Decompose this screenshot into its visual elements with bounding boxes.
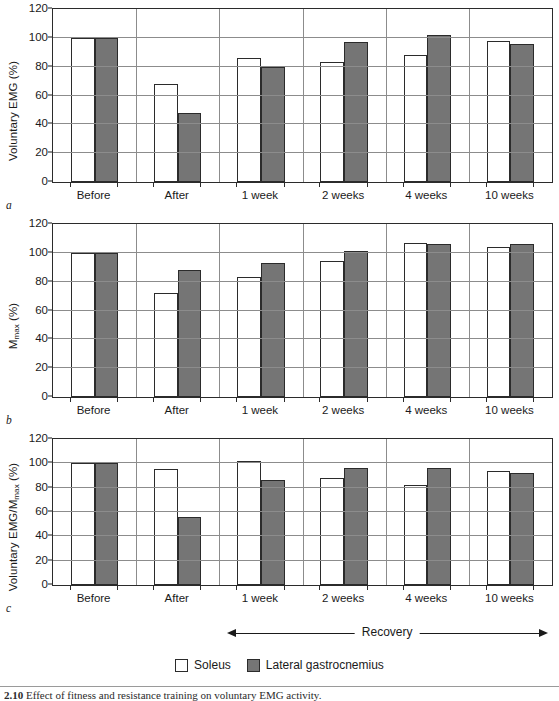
bar-lateral-gastrocnemius xyxy=(178,270,202,397)
panel-a-letter: a xyxy=(6,199,12,211)
x-tick-mark xyxy=(403,586,404,590)
bar-lateral-gastrocnemius xyxy=(95,253,119,397)
x-tick-mark xyxy=(153,183,154,187)
legend-label-soleus: Soleus xyxy=(194,658,231,672)
y-tick-label: 40 xyxy=(35,332,48,344)
x-axis-label: 10 weeks xyxy=(485,404,534,416)
legend-label-lateral-gastrocnemius: Lateral gastrocnemius xyxy=(266,658,384,672)
x-tick-mark xyxy=(403,398,404,402)
group-separator xyxy=(469,9,470,182)
caption-divider xyxy=(0,686,559,687)
panel-b-letter: b xyxy=(6,414,12,426)
bar-soleus xyxy=(404,243,428,397)
caption-text: Effect of fitness and resistance trainin… xyxy=(26,689,321,701)
x-tick-mark xyxy=(284,398,285,402)
group-separator xyxy=(136,439,137,585)
y-tick-label: 100 xyxy=(29,246,48,258)
panel-b-plot-area: 020406080100120 BeforeAfter1 week2 weeks… xyxy=(26,223,553,428)
x-tick-mark xyxy=(486,586,487,590)
bar-lateral-gastrocnemius xyxy=(261,263,285,397)
bar-soleus xyxy=(237,277,261,397)
group-separator xyxy=(386,9,387,182)
white-square-icon xyxy=(175,659,188,672)
gray-square-icon xyxy=(247,659,260,672)
x-tick-mark xyxy=(236,398,237,402)
x-axis-label: After xyxy=(165,592,189,604)
panel-c-y-axis-label: Voluntary EMG/Mmax (%) xyxy=(0,438,26,616)
y-tick-label: 120 xyxy=(29,217,48,229)
group-separator xyxy=(386,439,387,585)
y-tick-label: 120 xyxy=(29,432,48,444)
x-tick-mark xyxy=(533,586,534,590)
panel-b-y-axis-label-text: Mmax (%) xyxy=(7,302,19,349)
x-tick-mark xyxy=(153,586,154,590)
y-tick-label: 60 xyxy=(35,304,48,316)
group-separator xyxy=(219,224,220,397)
bar-lateral-gastrocnemius xyxy=(427,244,451,397)
recovery-annotation: Recovery xyxy=(0,622,559,644)
x-tick-mark xyxy=(200,398,201,402)
bar-soleus xyxy=(154,84,178,182)
group-separator xyxy=(136,9,137,182)
panel-c-y-axis-label-text: Voluntary EMG/Mmax (%) xyxy=(7,463,19,592)
panel-c-y-ticks: 020406080100120 xyxy=(26,438,52,586)
y-tick-label: 20 xyxy=(35,361,48,373)
y-tick-label: 40 xyxy=(35,117,48,129)
x-axis-label: 1 week xyxy=(242,404,278,416)
figure-caption: 2.10 Effect of fitness and resistance tr… xyxy=(4,689,555,701)
bar-soleus xyxy=(487,471,511,585)
x-tick-mark xyxy=(236,183,237,187)
x-axis-label: Before xyxy=(77,592,111,604)
caption-number: 2.10 xyxy=(4,689,23,701)
group-separator xyxy=(219,9,220,182)
panel-c: Voluntary EMG/Mmax (%) 020406080100120 B… xyxy=(0,438,559,616)
panel-a-y-ticks: 020406080100120 xyxy=(26,8,52,183)
x-axis-label: Before xyxy=(77,404,111,416)
x-tick-mark xyxy=(486,183,487,187)
y-tick-label: 80 xyxy=(35,60,48,72)
x-tick-mark xyxy=(70,183,71,187)
panel-a-y-axis-label: Voluntary EMG (%) xyxy=(0,8,26,213)
panel-a-x-axis: BeforeAfter1 week2 weeks4 weeks10 weeks xyxy=(52,183,553,213)
x-tick-mark xyxy=(367,586,368,590)
x-axis-label: 1 week xyxy=(242,189,278,201)
x-tick-mark xyxy=(284,586,285,590)
x-tick-mark xyxy=(319,183,320,187)
group-separator xyxy=(386,224,387,397)
y-tick-label: 20 xyxy=(35,146,48,158)
panel-a: Voluntary EMG (%) 020406080100120 Before… xyxy=(0,8,559,213)
group-separator xyxy=(303,9,304,182)
bar-lateral-gastrocnemius xyxy=(261,480,285,585)
x-tick-mark xyxy=(533,183,534,187)
bar-lateral-gastrocnemius xyxy=(510,244,534,397)
y-tick-label: 80 xyxy=(35,481,48,493)
legend-item-lateral-gastrocnemius: Lateral gastrocnemius xyxy=(247,658,384,672)
x-tick-mark xyxy=(200,183,201,187)
x-tick-mark xyxy=(367,398,368,402)
bar-soleus xyxy=(71,253,95,397)
bar-soleus xyxy=(404,55,428,182)
x-axis-label: After xyxy=(165,189,189,201)
x-axis-label: After xyxy=(165,404,189,416)
bar-soleus xyxy=(237,58,261,182)
bar-lateral-gastrocnemius xyxy=(178,517,202,585)
x-tick-mark xyxy=(117,398,118,402)
panel-c-letter: c xyxy=(6,602,11,614)
panel-a-plot xyxy=(52,8,553,183)
group-separator xyxy=(136,224,137,397)
group-separator xyxy=(303,439,304,585)
panel-a-plot-area: 020406080100120 BeforeAfter1 week2 weeks… xyxy=(26,8,553,213)
x-axis-label: 4 weeks xyxy=(405,592,447,604)
recovery-label: Recovery xyxy=(355,625,420,639)
bar-soleus xyxy=(320,261,344,397)
bar-lateral-gastrocnemius xyxy=(344,251,368,397)
panel-b-y-axis-label: Mmax (%) xyxy=(0,223,26,428)
x-tick-mark xyxy=(117,586,118,590)
figure-legend: Soleus Lateral gastrocnemius xyxy=(0,655,559,675)
bar-lateral-gastrocnemius xyxy=(261,67,285,182)
bar-lateral-gastrocnemius xyxy=(427,35,451,182)
x-tick-mark xyxy=(450,586,451,590)
legend-item-soleus: Soleus xyxy=(175,658,231,672)
bar-lateral-gastrocnemius xyxy=(95,463,119,585)
bar-soleus xyxy=(320,62,344,182)
